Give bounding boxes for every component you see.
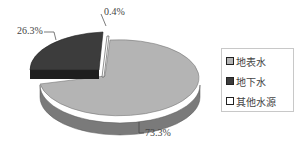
legend-swatch-icon [226, 97, 234, 105]
data-label-surface-water: 73.3% [145, 127, 171, 138]
slice-ground-water [30, 32, 103, 79]
legend-label: 地表水 [236, 54, 266, 69]
legend-item-surface-water: 地表水 [226, 54, 266, 68]
legend-label: 其他水源 [236, 94, 276, 109]
legend-item-ground-water: 地下水 [226, 74, 266, 88]
legend-label: 地下水 [236, 74, 266, 89]
legend: 地表水 地下水 其他水源 [221, 48, 294, 112]
data-label-other-water: 0.4% [104, 6, 125, 17]
data-label-ground-water: 26.3% [17, 25, 43, 36]
legend-swatch-icon [226, 57, 234, 65]
legend-swatch-icon [226, 77, 234, 85]
leader-line-ground [44, 32, 56, 40]
legend-item-other-water: 其他水源 [226, 94, 276, 108]
